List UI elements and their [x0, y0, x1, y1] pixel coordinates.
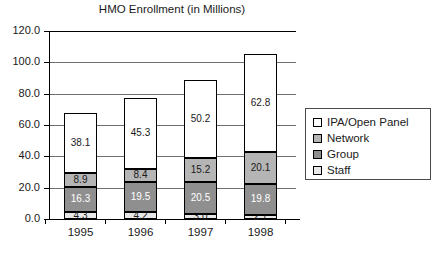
legend-item-group[interactable]: Group	[313, 146, 430, 162]
y-axis-tick-label: 100.0	[0, 55, 40, 67]
legend-item-network[interactable]: Network	[313, 130, 430, 146]
bar-value-label: 38.1	[71, 138, 90, 148]
y-axis-tick	[44, 62, 50, 63]
y-axis-tick-label: 60.0	[0, 118, 40, 130]
y-axis-tick-label: 40.0	[0, 149, 40, 161]
y-axis-tick	[44, 94, 50, 95]
x-axis-tick-label: 1997	[179, 226, 223, 238]
legend-swatch-icon	[313, 118, 322, 127]
legend-item-ipa-open-panel[interactable]: IPA/Open Panel	[313, 114, 430, 130]
y-axis-tick-label: 80.0	[0, 87, 40, 99]
bar-value-label: 50.2	[191, 114, 210, 124]
y-axis-tick	[44, 188, 50, 189]
y-axis-tick-label: 120.0	[0, 24, 40, 36]
y-axis-tick	[44, 31, 50, 32]
x-axis-tick	[105, 219, 106, 224]
bar-value-label: 20.1	[251, 163, 270, 173]
bar-segment-group: 20.5	[184, 182, 217, 214]
bar-segment-staff: 2.7	[244, 215, 277, 219]
bar-segment-group: 16.3	[64, 187, 97, 213]
bar-value-label: 16.3	[71, 194, 90, 204]
bar-1996: 4.219.58.445.3	[124, 0, 157, 256]
y-axis-tick-label: 0.0	[0, 212, 40, 224]
legend-item-label: Staff	[327, 164, 350, 176]
bar-1997: 3.020.515.250.2	[184, 0, 217, 256]
bar-value-label: 19.8	[251, 194, 270, 204]
legend-item-label: Group	[327, 148, 359, 160]
bar-value-label: 19.5	[131, 192, 150, 202]
bar-value-label: 20.5	[191, 193, 210, 203]
bar-segment-network: 15.2	[184, 158, 217, 182]
bar-segment-network: 8.9	[64, 173, 97, 187]
bar-value-label: 15.2	[191, 165, 210, 175]
chart-legend: IPA/Open PanelNetworkGroupStaff	[305, 108, 431, 180]
legend-item-label: IPA/Open Panel	[327, 116, 409, 128]
x-axis-tick-label: 1995	[59, 226, 103, 238]
x-axis-tick-label: 1998	[239, 226, 283, 238]
bar-segment-network: 20.1	[244, 152, 277, 183]
y-axis-tick	[44, 125, 50, 126]
bar-segment-group: 19.5	[124, 182, 157, 213]
y-axis-tick-label: 20.0	[0, 181, 40, 193]
bar-segment-ipa-open-panel: 50.2	[184, 80, 217, 159]
bar-value-label: 62.8	[251, 98, 270, 108]
bar-segment-ipa-open-panel: 45.3	[124, 98, 157, 169]
bar-segment-group: 19.8	[244, 184, 277, 215]
bar-segment-staff: 4.3	[64, 212, 97, 219]
bar-segment-network: 8.4	[124, 169, 157, 182]
legend-swatch-icon	[313, 134, 322, 143]
x-axis-tick	[165, 219, 166, 224]
bar-1995: 4.316.38.938.1	[64, 0, 97, 256]
bar-segment-ipa-open-panel: 62.8	[244, 54, 277, 152]
bar-value-label: 8.4	[134, 170, 148, 180]
bar-value-label: 45.3	[131, 128, 150, 138]
bar-1998: 2.719.820.162.8	[244, 0, 277, 256]
legend-swatch-icon	[313, 166, 322, 175]
x-axis-tick	[285, 219, 286, 224]
x-axis-tick	[45, 219, 46, 224]
x-axis-tick	[225, 219, 226, 224]
legend-item-label: Network	[327, 132, 369, 144]
bar-segment-staff: 3.0	[184, 214, 217, 219]
x-axis-tick-label: 1996	[119, 226, 163, 238]
bar-value-label: 8.9	[74, 175, 88, 185]
y-axis-tick	[44, 156, 50, 157]
bar-segment-staff: 4.2	[124, 212, 157, 219]
legend-item-staff[interactable]: Staff	[313, 162, 430, 178]
bar-segment-ipa-open-panel: 38.1	[64, 113, 97, 173]
chart-container: HMO Enrollment (in Millions) 0.020.040.0…	[0, 0, 433, 256]
legend-swatch-icon	[313, 150, 322, 159]
